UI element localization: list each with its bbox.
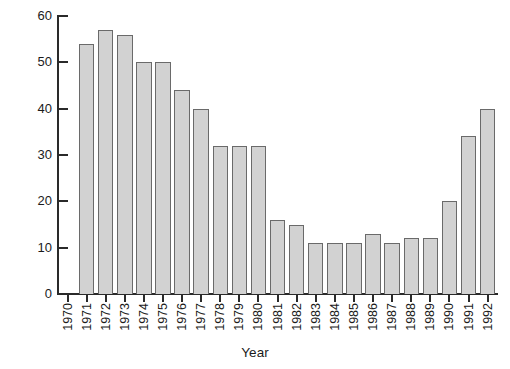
x-label-cell: 1991: [459, 303, 478, 345]
x-label-cell: 1988: [402, 303, 421, 345]
x-tick-label: 1992: [481, 303, 494, 331]
x-tick-cell: [344, 295, 363, 302]
x-tick-cell: [211, 295, 230, 302]
x-tick-mark: [181, 295, 183, 302]
x-tick-label: 1986: [367, 303, 380, 331]
x-tick-cell: [173, 295, 192, 302]
x-tick-mark: [200, 295, 202, 302]
x-tick-mark: [277, 295, 279, 302]
bar: [289, 225, 304, 295]
bar-slot: [459, 16, 478, 294]
x-tick-label: 1985: [348, 303, 361, 331]
bar: [117, 35, 132, 294]
x-tick-cell: [325, 295, 344, 302]
x-tick-label: 1973: [119, 303, 132, 331]
bar: [193, 109, 208, 294]
x-label-cell: 1978: [211, 303, 230, 345]
x-tick-label: 1982: [290, 303, 303, 331]
x-tick-cell: [96, 295, 115, 302]
x-axis-tick-labels: 1970197119721973197419751976197719781979…: [58, 303, 497, 345]
bar-slot: [421, 16, 440, 294]
x-tick-mark: [67, 295, 69, 302]
x-tick-mark: [315, 295, 317, 302]
x-label-cell: 1989: [421, 303, 440, 345]
y-tick-label-wrap: 50: [0, 55, 52, 68]
x-tick-label: 1980: [252, 303, 265, 331]
x-tick-mark: [410, 295, 412, 302]
bar: [270, 220, 285, 294]
x-tick-cell: [77, 295, 96, 302]
x-tick-mark: [86, 295, 88, 302]
y-tick-label-wrap: 30: [0, 148, 52, 161]
x-tick-label: 1971: [80, 303, 93, 331]
x-tick-label: 1976: [176, 303, 189, 331]
x-tick-label: 1975: [157, 303, 170, 331]
x-tick-label: 1974: [138, 303, 151, 331]
x-label-cell: 1979: [230, 303, 249, 345]
x-label-cell: 1981: [268, 303, 287, 345]
x-tick-label: 1978: [214, 303, 227, 331]
x-tick-mark: [296, 295, 298, 302]
bar: [251, 146, 266, 294]
bar-series: [58, 16, 497, 294]
bar-slot: [249, 16, 268, 294]
x-label-cell: 1987: [383, 303, 402, 345]
bar: [98, 30, 113, 294]
bar: [213, 146, 228, 294]
x-tick-cell: [402, 295, 421, 302]
x-label-cell: 1990: [440, 303, 459, 345]
x-tick-label: 1988: [405, 303, 418, 331]
x-tick-mark: [429, 295, 431, 302]
x-tick-cell: [383, 295, 402, 302]
plot-area: [58, 16, 497, 294]
bar: [480, 109, 495, 294]
x-tick-label: 1984: [329, 303, 342, 331]
bar-slot: [306, 16, 325, 294]
x-tick-mark: [487, 295, 489, 302]
x-tick-mark: [353, 295, 355, 302]
x-tick-mark: [143, 295, 145, 302]
x-tick-cell: [364, 295, 383, 302]
y-tick-label: 40: [6, 102, 52, 115]
bar: [365, 234, 380, 294]
bar-slot: [325, 16, 344, 294]
bar-chart: 0102030405060 19701971197219731974197519…: [0, 0, 510, 369]
x-tick-mark: [391, 295, 393, 302]
bar-slot: [364, 16, 383, 294]
x-label-cell: 1973: [115, 303, 134, 345]
x-tick-cell: [306, 295, 325, 302]
bar: [327, 243, 342, 294]
x-label-cell: 1974: [134, 303, 153, 345]
x-tick-cell: [268, 295, 287, 302]
bar: [174, 90, 189, 294]
x-tick-label: 1990: [443, 303, 456, 331]
y-tick-label-wrap: 40: [0, 102, 52, 115]
bar-slot: [383, 16, 402, 294]
x-tick-label: 1981: [271, 303, 284, 331]
x-tick-cell: [421, 295, 440, 302]
bar-slot: [344, 16, 363, 294]
x-tick-cell: [249, 295, 268, 302]
bar-slot: [192, 16, 211, 294]
bar: [79, 44, 94, 294]
y-tick-label: 50: [6, 55, 52, 68]
x-tick-label: 1977: [195, 303, 208, 331]
bar-slot: [58, 16, 77, 294]
x-label-cell: 1980: [249, 303, 268, 345]
bar-slot: [134, 16, 153, 294]
x-label-cell: 1976: [173, 303, 192, 345]
y-tick-label-wrap: 0: [0, 287, 52, 300]
x-axis-ticks: [58, 295, 497, 302]
x-tick-mark: [124, 295, 126, 302]
x-tick-mark: [238, 295, 240, 302]
x-tick-cell: [287, 295, 306, 302]
x-tick-cell: [440, 295, 459, 302]
x-tick-label: 1989: [424, 303, 437, 331]
bar: [346, 243, 361, 294]
bar: [155, 62, 170, 294]
x-tick-mark: [162, 295, 164, 302]
bar: [423, 238, 438, 294]
bar-slot: [153, 16, 172, 294]
x-tick-mark: [468, 295, 470, 302]
bar-slot: [173, 16, 192, 294]
